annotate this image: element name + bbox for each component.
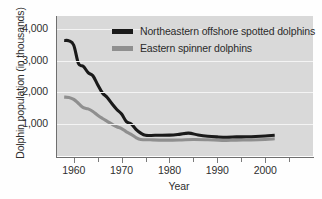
legend-color-swatch bbox=[112, 29, 133, 34]
y-axis-ticks: 1,0002,0003,0004,000 bbox=[8, 0, 48, 199]
x-tick-mark bbox=[122, 158, 123, 163]
x-tick-label: 1990 bbox=[195, 164, 239, 176]
gridline bbox=[57, 124, 313, 125]
chart-legend: Northeastern offshore spotted dolphinsEa… bbox=[112, 24, 315, 58]
legend-label: Northeastern offshore spotted dolphins bbox=[140, 25, 315, 37]
gridline bbox=[57, 61, 313, 62]
y-tick-label: 4,000 bbox=[8, 22, 48, 34]
x-tick-label: 2000 bbox=[243, 164, 287, 176]
x-tick-mark-minor bbox=[289, 158, 290, 162]
legend-item: Northeastern offshore spotted dolphins bbox=[112, 24, 315, 38]
legend-label: Eastern spinner dolphins bbox=[140, 42, 252, 54]
legend-color-swatch bbox=[112, 46, 133, 51]
x-tick-label: 1970 bbox=[100, 164, 144, 176]
x-tick-mark bbox=[265, 158, 266, 163]
x-tick-mark-minor bbox=[146, 158, 147, 162]
y-tick-label: 3,000 bbox=[8, 54, 48, 66]
x-tick-label: 1980 bbox=[147, 164, 191, 176]
x-tick-mark bbox=[169, 158, 170, 163]
x-axis-label: Year bbox=[0, 180, 322, 192]
x-tick-mark bbox=[74, 158, 75, 163]
chart-figure: Dolphin population (in thousands) 1,0002… bbox=[0, 0, 322, 199]
x-axis-spine bbox=[56, 157, 314, 158]
x-tick-mark-minor bbox=[241, 158, 242, 162]
y-axis-spine bbox=[56, 16, 57, 158]
x-tick-label: 1960 bbox=[52, 164, 96, 176]
gridline bbox=[57, 92, 313, 93]
x-tick-mark-minor bbox=[98, 158, 99, 162]
y-tick-label: 2,000 bbox=[8, 85, 48, 97]
x-tick-mark bbox=[217, 158, 218, 163]
x-tick-mark-minor bbox=[193, 158, 194, 162]
legend-item: Eastern spinner dolphins bbox=[112, 41, 315, 55]
y-tick-label: 1,000 bbox=[8, 117, 48, 129]
